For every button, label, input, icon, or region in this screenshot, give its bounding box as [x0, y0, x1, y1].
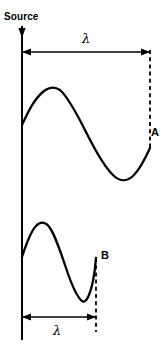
- arrow-head-left-icon: [22, 48, 31, 55]
- arrow-head-right-icon: [141, 48, 150, 55]
- wave-diagram-canvas: [0, 0, 165, 346]
- source-axis-group: [18, 26, 25, 340]
- point-b-label: B: [101, 250, 109, 261]
- lambda-top-label: λ: [82, 32, 90, 45]
- source-label: Source: [4, 12, 39, 22]
- lambda-top-measure-arrow: [22, 48, 150, 55]
- wave-diagram-figure: Source λ λ A B: [0, 0, 165, 346]
- arrow-head-right-icon: [87, 313, 96, 320]
- wave-curve-b: [22, 223, 96, 302]
- lambda-bottom-measure-arrow: [22, 313, 96, 320]
- wave-curve-a: [22, 87, 150, 180]
- point-a-label: A: [151, 127, 159, 138]
- lambda-bottom-label: λ: [53, 324, 61, 337]
- arrow-down-icon: [18, 28, 25, 38]
- arrow-head-left-icon: [22, 313, 31, 320]
